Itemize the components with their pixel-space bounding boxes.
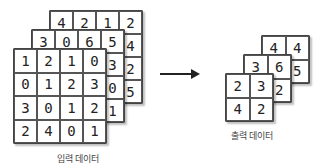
- matrix-cell: 2: [14, 120, 37, 144]
- matrix-cell: 2: [60, 73, 83, 97]
- matrix-cell: 1: [60, 96, 83, 120]
- matrix-cell: 1: [83, 120, 106, 144]
- input-label: 입력 데이터: [57, 152, 100, 165]
- matrix-cell: 4: [226, 98, 250, 122]
- input-channel-1: 1210012330122401: [13, 48, 107, 144]
- matrix-cell: 3: [250, 74, 274, 98]
- matrix-cell: 3: [83, 73, 106, 97]
- matrix-cell: 2: [250, 98, 274, 122]
- matrix-cell: 0: [83, 49, 106, 73]
- matrix-cell: 0: [14, 73, 37, 97]
- matrix-cell: 0: [60, 120, 83, 144]
- matrix-cell: 0: [37, 96, 60, 120]
- output-label: 출력 데이터: [231, 129, 274, 142]
- matrix-cell: 1: [37, 73, 60, 97]
- matrix-cell: 4: [37, 120, 60, 144]
- matrix-cell: 1: [60, 49, 83, 73]
- matrix-cell: 1: [14, 49, 37, 73]
- matrix-cell: 2: [37, 49, 60, 73]
- matrix-cell: 2: [226, 74, 250, 98]
- output-channel-1: 2342: [225, 73, 274, 122]
- matrix-cell: 3: [14, 96, 37, 120]
- matrix-cell: 2: [83, 96, 106, 120]
